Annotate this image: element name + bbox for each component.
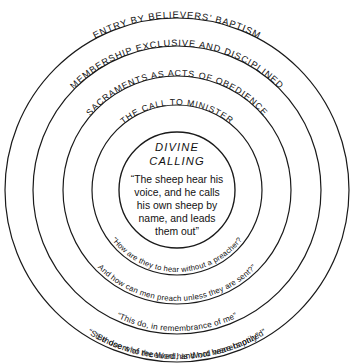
ring-quote-this-do-remembrance: “This do, in remembrance of me”	[116, 311, 239, 333]
ring-quote-how-are-they-to-hear: “How are they to hear without a preacher…	[110, 235, 244, 274]
core-quote-line-1: “The sheep hear his	[131, 174, 223, 185]
ring-label-sacraments: SACRAMENTS AS ACTS OF OBEDIENCE	[84, 68, 270, 118]
diagram-canvas: THE CALL TO MINISTER SACRAMENTS AS ACTS …	[0, 0, 354, 363]
core-quote-line-3: his own sheep by	[137, 200, 218, 211]
ring-label-call-to-minister: THE CALL TO MINISTER	[118, 97, 235, 126]
core-quote-line-2: voice, and he calls	[134, 187, 219, 198]
concentric-circles-diagram: THE CALL TO MINISTER SACRAMENTS AS ACTS …	[0, 0, 354, 363]
core-quote-line-4: name, and leads	[139, 213, 216, 224]
ring-label-entry-baptism: ENTRY BY BELIEVERS’ BAPTISM	[91, 9, 263, 41]
ring-label-membership: MEMBERSHIP EXCLUSIVE AND DISCIPLINED	[68, 38, 286, 91]
core-title-line-2: CALLING	[149, 155, 205, 167]
core-title-line-1: DIVINE	[155, 141, 199, 153]
core-quote-line-5: them out”	[155, 226, 199, 237]
